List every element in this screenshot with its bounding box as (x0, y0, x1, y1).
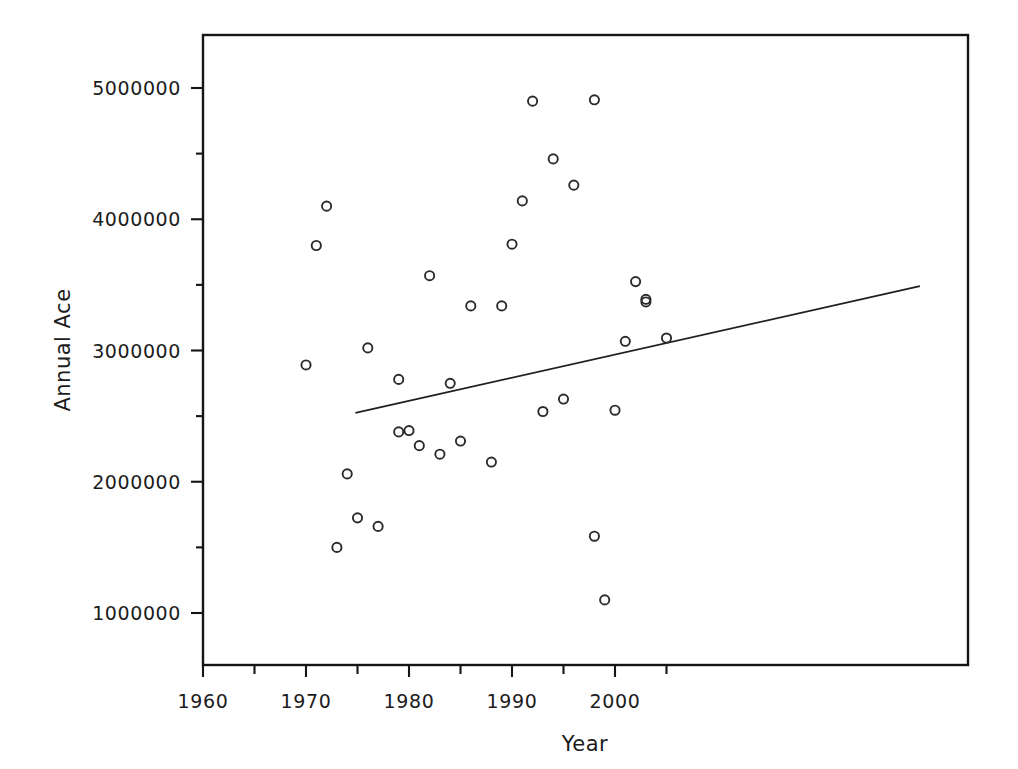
y-tick-label: 5000000 (92, 77, 181, 99)
data-point-marker (610, 406, 619, 415)
data-point-marker (343, 469, 352, 478)
plot-canvas: 10000002000000300000040000005000000 1960… (0, 0, 1018, 769)
data-point-marker (518, 196, 527, 205)
data-point-marker (549, 154, 558, 163)
scatter-chart-figure: 10000002000000300000040000005000000 1960… (0, 0, 1018, 769)
data-points (301, 95, 671, 604)
x-tick-label: 1960 (178, 690, 229, 712)
x-tick-label: 1970 (281, 690, 332, 712)
data-point-marker (507, 240, 516, 249)
y-axis-ticks (191, 88, 203, 613)
data-point-marker (528, 97, 537, 106)
data-point-marker (631, 277, 640, 286)
data-point-marker (394, 375, 403, 384)
data-point-marker (590, 95, 599, 104)
data-point-marker (425, 271, 434, 280)
data-point-marker (374, 522, 383, 531)
data-point-marker (435, 450, 444, 459)
x-tick-label: 1980 (384, 690, 435, 712)
data-point-marker (590, 532, 599, 541)
data-point-marker (415, 441, 424, 450)
data-point-marker (363, 343, 372, 352)
data-point-marker (538, 407, 547, 416)
data-point-marker (621, 337, 630, 346)
data-point-marker (466, 301, 475, 310)
data-point-marker (394, 427, 403, 436)
trend-line (355, 286, 919, 413)
x-axis-title: Year (561, 732, 608, 756)
data-point-marker (301, 360, 310, 369)
data-point-marker (559, 394, 568, 403)
x-tick-label: 2000 (590, 690, 641, 712)
trend-line-segment (355, 286, 919, 413)
y-tick-label: 2000000 (92, 471, 181, 493)
data-point-marker (497, 301, 506, 310)
y-tick-label: 3000000 (92, 340, 181, 362)
y-tick-label: 1000000 (92, 602, 181, 624)
data-point-marker (312, 241, 321, 250)
data-point-marker (353, 513, 362, 522)
data-point-marker (332, 543, 341, 552)
data-point-marker (456, 436, 465, 445)
data-point-marker (662, 333, 671, 342)
y-axis-title: Annual Ace (51, 288, 75, 411)
x-axis-ticks (203, 665, 667, 677)
data-point-marker (446, 379, 455, 388)
data-point-marker (487, 457, 496, 466)
x-tick-label: 1990 (487, 690, 538, 712)
y-tick-label: 4000000 (92, 208, 181, 230)
data-point-marker (404, 426, 413, 435)
x-axis-tick-labels: 19601970198019902000 (178, 690, 641, 712)
data-point-marker (569, 181, 578, 190)
data-point-marker (600, 595, 609, 604)
data-point-marker (322, 202, 331, 211)
plot-frame (203, 35, 968, 665)
y-axis-tick-labels: 10000002000000300000040000005000000 (92, 77, 181, 624)
